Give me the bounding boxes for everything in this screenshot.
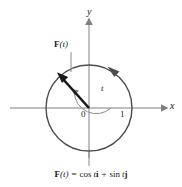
caption-sin: sin <box>110 169 121 179</box>
angle-arc <box>74 92 111 114</box>
vector-label-close-paren: ) <box>65 39 68 49</box>
position-vector-shaft <box>63 79 90 109</box>
x-axis-label: x <box>170 101 174 111</box>
y-axis-arrowhead <box>85 18 93 26</box>
caption-i-hat: i <box>96 169 99 179</box>
angle-label: t <box>101 84 104 93</box>
diagram-canvas <box>0 0 182 187</box>
vector-label: F(t) <box>54 40 68 49</box>
caption-cos: cos <box>79 169 91 179</box>
x-axis-arrowhead <box>161 104 169 112</box>
caption-plus: + <box>102 169 107 179</box>
caption-close-paren: ) <box>65 169 68 179</box>
vector-function-figure: y x 0 1 t F(t) F(t)=costi+sintj <box>0 0 182 187</box>
caption-equals: = <box>71 169 76 179</box>
caption-j-hat: j <box>125 169 128 179</box>
y-axis-label: y <box>87 7 91 17</box>
origin-label: 0 <box>81 110 86 119</box>
figure-caption: F(t)=costi+sintj <box>0 169 182 179</box>
x-tick-label-one: 1 <box>120 110 125 119</box>
